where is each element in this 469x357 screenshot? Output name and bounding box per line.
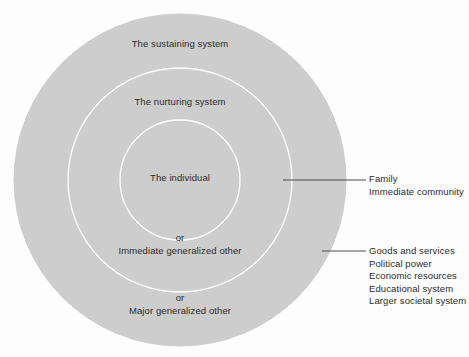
outer-ring-alt-text: Major generalized other bbox=[0, 305, 360, 318]
middle-ring-alt-prefix: or bbox=[0, 232, 360, 245]
outer-ring-label: The sustaining system bbox=[0, 38, 360, 51]
callout-item: Goods and services bbox=[369, 245, 466, 258]
inner-ring-label: The individual bbox=[0, 172, 360, 185]
callout-item: Immediate community bbox=[369, 186, 464, 199]
concentric-systems-diagram: The sustaining system The nurturing syst… bbox=[0, 0, 469, 357]
callout-item: Family bbox=[369, 173, 464, 186]
middle-ring-alt-label: or Immediate generalized other bbox=[0, 232, 360, 257]
outer-ring-alt-prefix: or bbox=[0, 292, 360, 305]
callout-item: Political power bbox=[369, 258, 466, 271]
callout-item: Educational system bbox=[369, 283, 466, 296]
callout-nurturing: Family Immediate community bbox=[369, 173, 464, 198]
middle-ring-label: The nurturing system bbox=[0, 96, 360, 109]
outer-ring-alt-label: or Major generalized other bbox=[0, 292, 360, 317]
middle-ring-alt-text: Immediate generalized other bbox=[0, 245, 360, 258]
callout-sustaining: Goods and services Political power Econo… bbox=[369, 245, 466, 308]
callout-item: Larger societal system bbox=[369, 295, 466, 308]
callout-item: Economic resources bbox=[369, 270, 466, 283]
